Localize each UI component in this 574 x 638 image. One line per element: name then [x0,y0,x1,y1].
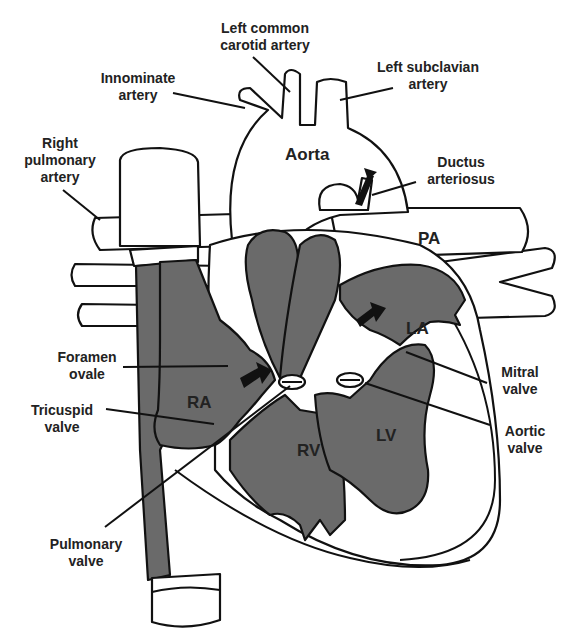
label-left-common-carotid: Left common carotid artery [220,20,310,53]
svg-text:Foramen: Foramen [57,349,116,365]
label-left-subclavian: Left subclavian artery [377,59,479,92]
svg-text:Innominate: Innominate [101,70,176,86]
label-ra: RA [187,393,212,412]
svg-text:carotid artery: carotid artery [220,37,310,53]
label-mitral-valve: Mitral valve [501,364,538,397]
svg-text:valve: valve [68,553,103,569]
label-foramen-ovale: Foramen ovale [57,349,116,382]
svg-text:valve: valve [507,440,542,456]
label-pa: PA [418,229,440,248]
label-innominate: Innominate artery [101,70,176,103]
heart-diagram: Left common carotid artery Innominate ar… [0,0,574,638]
svg-text:artery: artery [409,76,448,92]
svg-text:artery: artery [119,87,158,103]
svg-text:arteriosus: arteriosus [427,171,495,187]
svg-text:Tricuspid: Tricuspid [31,402,93,418]
svg-text:Left common: Left common [221,20,309,36]
svg-text:artery: artery [41,169,80,185]
pulmonary-valve [279,375,305,389]
label-aorta: Aorta [285,145,330,164]
svg-text:Ductus: Ductus [437,154,485,170]
label-right-pulmonary-artery: Right pulmonary artery [24,135,96,185]
svg-text:ovale: ovale [69,366,105,382]
label-tricuspid-valve: Tricuspid valve [31,402,93,435]
label-ductus-arteriosus: Ductus arteriosus [427,154,495,187]
label-la: LA [406,319,429,338]
aortic-valve [337,373,363,387]
svg-text:Right: Right [42,135,78,151]
label-lv: LV [376,426,397,445]
svg-text:Pulmonary: Pulmonary [50,536,123,552]
svg-text:Aortic: Aortic [505,423,546,439]
label-rv: RV [297,441,321,460]
svg-text:Mitral: Mitral [501,364,538,380]
label-pulmonary-valve: Pulmonary valve [50,536,123,569]
label-aortic-valve: Aortic valve [505,423,546,456]
svg-text:Left subclavian: Left subclavian [377,59,479,75]
svg-text:pulmonary: pulmonary [24,152,96,168]
svg-text:valve: valve [44,419,79,435]
svg-text:valve: valve [502,381,537,397]
